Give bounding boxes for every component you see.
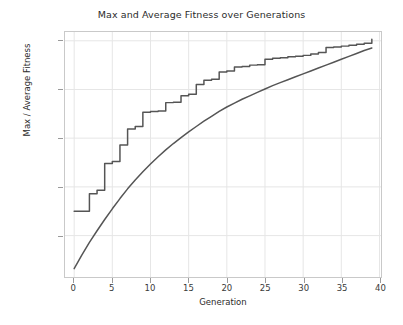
x-tick-mark [227, 278, 228, 283]
x-tick-label: 5 [92, 283, 132, 293]
x-tick-label: 35 [322, 283, 362, 293]
y-axis-label: Max / Average Fitness [22, 0, 32, 180]
x-tick-mark [265, 278, 266, 283]
y-tick-mark [58, 236, 63, 237]
x-tick-label: 0 [53, 283, 93, 293]
x-tick-mark [150, 278, 151, 283]
x-tick-label: 20 [207, 283, 247, 293]
x-tick-label: 15 [168, 283, 208, 293]
x-tick-label: 30 [284, 283, 324, 293]
x-axis-label: Generation [64, 297, 382, 307]
x-tick-mark [188, 278, 189, 283]
y-tick-mark [58, 89, 63, 90]
x-tick-label: 40 [360, 283, 400, 293]
x-tick-mark [304, 278, 305, 283]
x-tick-mark [112, 278, 113, 283]
plot-area [64, 31, 382, 278]
x-tick-mark [342, 278, 343, 283]
x-tick-mark [380, 278, 381, 283]
data-series-layer [65, 32, 381, 277]
x-tick-label: 10 [130, 283, 170, 293]
x-tick-label: 25 [245, 283, 285, 293]
y-tick-mark [58, 138, 63, 139]
chart-figure: Max and Average Fitness over Generations… [0, 0, 403, 325]
series-line-average-fitness [74, 48, 372, 269]
y-tick-mark [58, 40, 63, 41]
y-tick-mark [58, 187, 63, 188]
chart-title: Max and Average Fitness over Generations [0, 9, 403, 20]
x-tick-mark [73, 278, 74, 283]
